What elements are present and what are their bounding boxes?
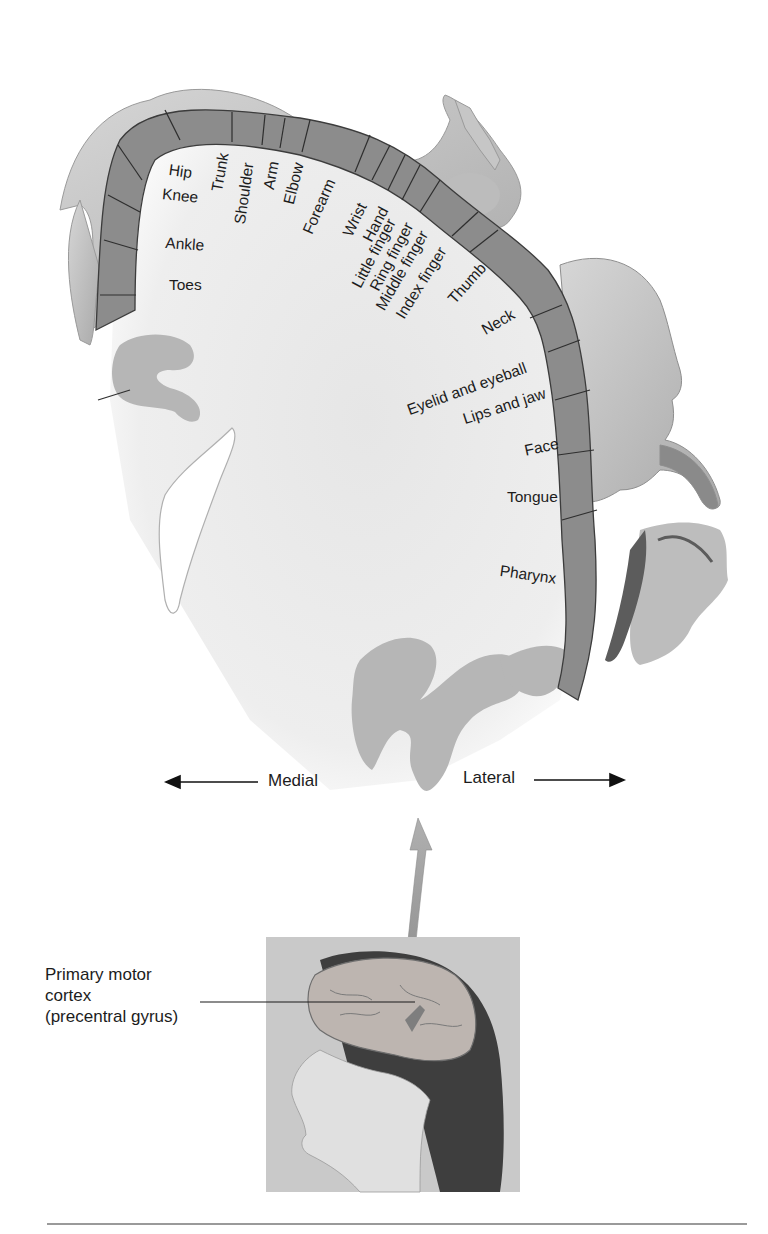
direction-medial-label: Medial: [268, 771, 318, 791]
callout-line-1: Primary motor: [45, 964, 178, 985]
label-ankle: Ankle: [165, 235, 205, 253]
brain-inset: [200, 937, 520, 1192]
pharynx-section: [605, 523, 728, 666]
label-tongue: Tongue: [507, 489, 558, 505]
label-knee: Knee: [161, 186, 199, 205]
direction-lateral-label: Lateral: [463, 768, 515, 788]
bottom-divider: [47, 1223, 747, 1225]
callout-line-3: (precentral gyrus): [45, 1006, 178, 1027]
label-toes: Toes: [169, 277, 202, 293]
figure-artwork: [0, 0, 768, 1234]
label-hip: Hip: [168, 162, 193, 181]
callout-primary-motor-cortex: Primary motor cortex (precentral gyrus): [45, 964, 178, 1027]
homunculus-figure: Hip Trunk Knee Ankle Toes Shoulder Arm E…: [0, 0, 768, 1234]
callout-line-2: cortex: [45, 985, 178, 1006]
